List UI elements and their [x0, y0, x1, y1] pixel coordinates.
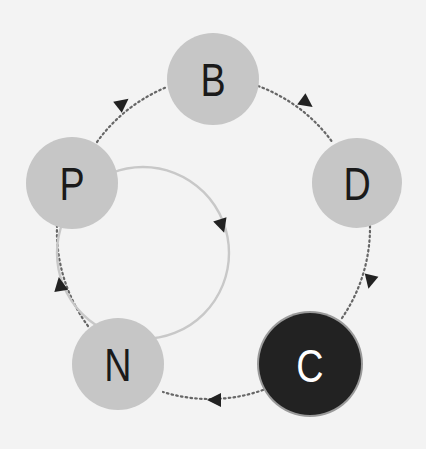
- node-n-label: N: [104, 339, 131, 390]
- node-p[interactable]: P: [26, 137, 118, 229]
- edge-p-to-b: [97, 87, 167, 142]
- node-d[interactable]: D: [312, 138, 402, 228]
- edge-b-to-d: [258, 86, 333, 143]
- arrow-inner-loop-icon: [213, 217, 231, 235]
- node-n[interactable]: N: [72, 318, 164, 410]
- node-b[interactable]: B: [167, 33, 259, 125]
- cycle-diagram: B D C N P: [0, 0, 426, 449]
- edge-n-to-p: [57, 226, 88, 326]
- node-c[interactable]: C: [257, 311, 363, 417]
- diagram-canvas: B D C N P: [0, 0, 426, 449]
- arrow-p-to-b-icon: [113, 93, 133, 113]
- node-p-label: P: [59, 158, 84, 209]
- arrow-c-to-n-icon: [207, 393, 221, 407]
- node-d-label: D: [343, 158, 370, 209]
- node-b-label: B: [200, 54, 225, 105]
- node-c-label: C: [296, 340, 323, 391]
- edge-d-to-c: [342, 226, 370, 318]
- arrow-d-to-c-icon: [362, 274, 379, 291]
